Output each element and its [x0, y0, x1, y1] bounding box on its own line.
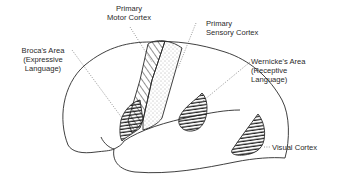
- brain-diagram: [0, 0, 343, 181]
- broca-leader: [72, 50, 122, 118]
- motor-cortex-label: Primary Motor Cortex: [99, 4, 159, 22]
- sensory-label-line2: Sensory Cortex: [206, 28, 258, 37]
- motor-label-line2: Motor Cortex: [99, 13, 159, 22]
- sensory-cortex-label: Primary Sensory Cortex: [206, 19, 258, 37]
- sensory-leader: [178, 23, 196, 68]
- frontal-lower-outline: [68, 145, 114, 153]
- visual-cortex-label: Visual Cortex: [272, 143, 317, 152]
- motor-label-line1: Primary: [99, 4, 159, 13]
- visual-cortex-region: [232, 114, 265, 155]
- wernicke-label-line2: (Receptive: [251, 66, 306, 75]
- wernicke-label-line1: Wernicke's Area: [251, 57, 306, 66]
- broca-area-region: [120, 100, 143, 141]
- wernicke-area-label: Wernicke's Area (Receptive Language): [251, 57, 306, 84]
- broca-label-line2: (Expressive: [14, 55, 72, 64]
- temporal-lobe-outline: [114, 149, 285, 173]
- wernicke-label-line3: Language): [251, 75, 306, 84]
- broca-area-label: Broca's Area (Expressive Language): [14, 46, 72, 73]
- broca-label-line3: Language): [14, 64, 72, 73]
- sensory-label-line1: Primary: [206, 19, 258, 28]
- visual-label-line1: Visual Cortex: [272, 143, 317, 152]
- wernicke-area-region: [179, 93, 207, 131]
- broca-label-line1: Broca's Area: [14, 46, 72, 55]
